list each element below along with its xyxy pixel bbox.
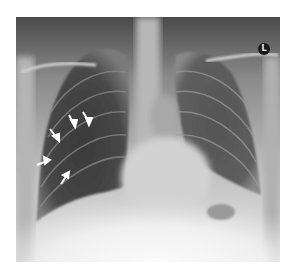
chest-xray-image: L <box>16 17 280 262</box>
side-marker-l: L <box>258 43 270 55</box>
xray-drawing <box>16 17 280 262</box>
